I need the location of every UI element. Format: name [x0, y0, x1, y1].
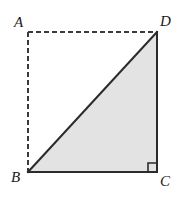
geometry-figure: [0, 0, 180, 199]
vertex-label-b: B: [11, 170, 20, 185]
vertex-label-d: D: [160, 14, 171, 29]
vertex-label-c: C: [160, 174, 170, 189]
vertex-label-a: A: [14, 15, 23, 30]
